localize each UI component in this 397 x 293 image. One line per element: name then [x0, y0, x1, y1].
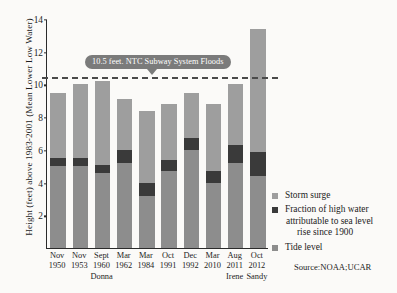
legend-swatch	[272, 245, 278, 251]
y-axis-tick-mark	[44, 19, 48, 20]
bar-segment-sea-level-rise	[73, 158, 89, 166]
x-label-month: Mar	[117, 251, 131, 260]
bar-segment-tide-level	[206, 183, 222, 248]
bar-group	[73, 19, 89, 248]
x-label-month: Sept	[94, 251, 109, 260]
bar-group	[117, 19, 133, 248]
bar-segment-sea-level-rise	[228, 145, 244, 163]
bar-segment-tide-level	[117, 163, 133, 248]
x-label-month: Mar	[206, 251, 220, 260]
x-label-month: Nov	[50, 251, 64, 260]
threshold-callout-pointer	[147, 69, 157, 75]
bar-group	[95, 19, 111, 248]
chart-legend: Storm surgeFraction of high waterattribu…	[272, 190, 394, 256]
y-axis-tick-mark	[44, 85, 48, 86]
x-label-month: Nov	[72, 251, 86, 260]
x-label-month: Mar	[139, 251, 153, 260]
y-axis-title: Height (feet) above 1983-2001 (Mean Lowe…	[24, 2, 34, 252]
x-axis-labels: Nov1950Nov1953Sept1960DonnaMar1962Mar198…	[46, 251, 268, 293]
bar-segment-sea-level-rise	[50, 158, 66, 166]
bar-segment-tide-level	[50, 166, 66, 248]
bar-segment-sea-level-rise	[139, 183, 155, 196]
x-label-month: Oct	[162, 251, 174, 260]
x-axis-tick-label: Sept1960Donna	[90, 251, 112, 283]
bar-group	[228, 19, 244, 248]
x-axis-tick-label: Mar1962	[113, 251, 135, 271]
bar-group	[50, 19, 66, 248]
x-axis-tick-label: Mar2010	[201, 251, 223, 271]
bar-segment-storm-surge	[206, 104, 222, 171]
legend-label: Fraction of high water	[285, 204, 369, 214]
legend-label: rise since 1900	[297, 227, 394, 238]
y-axis-tick-mark	[44, 117, 48, 118]
x-axis-tick-label: Mar1984	[135, 251, 157, 271]
x-label-storm-name: Sandy	[246, 272, 268, 282]
x-label-year: 1962	[115, 261, 132, 270]
bar-segment-tide-level	[161, 171, 177, 248]
bar-segment-storm-surge	[50, 93, 66, 158]
plot-inner: 246810121410.5 feet. NTC Subway System F…	[47, 20, 268, 248]
x-axis-tick-label: Oct1991	[157, 251, 179, 271]
bar-segment-sea-level-rise	[206, 171, 222, 182]
x-label-year: 1950	[49, 261, 66, 270]
bar-segment-storm-surge	[184, 93, 200, 139]
bar-segment-sea-level-rise	[161, 160, 177, 171]
legend-label: Tide level	[285, 242, 322, 252]
bar-group	[139, 19, 155, 248]
bar-segment-sea-level-rise	[184, 138, 200, 149]
y-axis-tick-mark	[44, 216, 48, 217]
x-label-year: 1992	[182, 261, 199, 270]
bar-segment-tide-level	[184, 150, 200, 248]
x-axis-tick-label: Dec1992	[179, 251, 201, 271]
threshold-callout-label: 10.5 feet. NTC Subway System Floods	[85, 55, 231, 69]
bar-segment-tide-level	[95, 173, 111, 248]
bar-group	[250, 19, 266, 248]
bar-segment-storm-surge	[161, 104, 177, 160]
bar-segment-storm-surge	[139, 111, 155, 183]
x-axis-tick-label: Nov1950	[46, 251, 68, 271]
bar-segment-storm-surge	[73, 84, 89, 158]
legend-swatch	[272, 193, 278, 199]
x-label-month: Oct	[251, 251, 263, 260]
bar-segment-storm-surge	[250, 29, 266, 152]
bar-group	[206, 19, 222, 248]
x-label-month: Aug	[227, 251, 241, 260]
x-label-storm-name: Irene	[224, 272, 246, 282]
legend-item: Fraction of high waterattributable to se…	[272, 204, 394, 238]
legend-item: Tide level	[272, 242, 394, 253]
bar-segment-storm-surge	[228, 84, 244, 145]
x-label-year: 1953	[71, 261, 88, 270]
y-axis-tick-mark	[44, 183, 48, 184]
x-label-storm-name: Donna	[90, 272, 112, 282]
bar-segment-tide-level	[73, 166, 89, 248]
chart-page: Height (feet) above 1983-2001 (Mean Lowe…	[0, 0, 397, 293]
x-label-year: 2012	[249, 261, 266, 270]
x-axis-tick-label: Nov1953	[68, 251, 90, 271]
x-axis-tick-label: Oct2012Sandy	[246, 251, 268, 283]
bar-segment-sea-level-rise	[250, 152, 266, 177]
bar-segment-tide-level	[250, 176, 266, 248]
x-label-year: 1984	[138, 261, 155, 270]
legend-label: attributable to sea level	[286, 216, 394, 227]
bar-segment-storm-surge	[117, 99, 133, 150]
x-label-year: 2010	[204, 261, 221, 270]
x-label-month: Dec	[184, 251, 197, 260]
bar-segment-sea-level-rise	[95, 165, 111, 173]
bar-segment-tide-level	[139, 196, 155, 248]
threshold-dashed-line	[42, 77, 278, 79]
x-label-year: 1991	[160, 261, 177, 270]
source-note: Source:NOAA;UCAR	[294, 262, 371, 272]
x-label-year: 2011	[226, 261, 242, 270]
y-axis-tick-mark	[44, 150, 48, 151]
bar-segment-sea-level-rise	[117, 150, 133, 163]
x-label-year: 1960	[93, 261, 110, 270]
y-axis-tick-mark	[44, 52, 48, 53]
bar-group	[184, 19, 200, 248]
bar-segment-tide-level	[228, 163, 244, 248]
bar-segment-storm-surge	[95, 81, 111, 164]
bar-group	[161, 19, 177, 248]
legend-swatch	[272, 207, 278, 213]
x-axis-tick-label: Aug2011Irene	[224, 251, 246, 283]
legend-label: Storm surge	[285, 190, 330, 200]
plot-area: 246810121410.5 feet. NTC Subway System F…	[46, 20, 268, 249]
